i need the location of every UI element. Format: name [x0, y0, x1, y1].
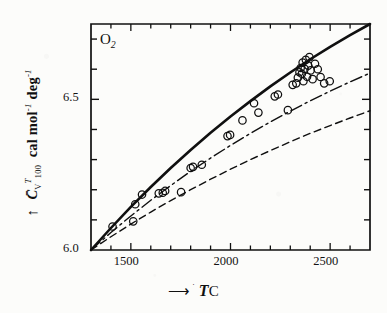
y-axis-arrow-icon: ↑: [24, 211, 40, 217]
y-axis-label: ↑ C̄VT100 cal mol-1 deg-1: [23, 38, 43, 248]
y-units-cal-mol: cal mol: [24, 111, 40, 157]
data-point: [189, 163, 196, 170]
data-point: [255, 109, 262, 116]
data-point: [250, 100, 257, 107]
species-subscript: 2: [111, 39, 116, 50]
data-point: [226, 131, 233, 138]
y-units-deg: deg: [24, 77, 40, 99]
y-symbol-c: C̄: [24, 190, 40, 200]
y-tick-label: 6.0: [63, 241, 79, 256]
x-tick-label: 2000: [214, 254, 239, 269]
x-symbol-t: T: [199, 282, 209, 299]
y-symbol-sub-100: 100: [34, 165, 43, 178]
data-point: [239, 117, 246, 124]
scatter-points: [109, 53, 334, 230]
species-annotation: O2: [100, 31, 116, 50]
species-symbol: O: [100, 31, 111, 47]
x-symbol-c: C: [209, 283, 219, 299]
y-symbol-sub-v: V: [34, 183, 43, 189]
x-axis-label: ⟶ ˙ TC: [0, 282, 387, 300]
figure-container: O2 ↑ C̄VT100 cal mol-1 deg-1 ⟶ ˙ TC 1500…: [0, 0, 387, 313]
x-axis-arrow-icon: ⟶: [168, 283, 188, 299]
y-symbol-sup-t: T: [23, 178, 33, 183]
x-tick-label: 2500: [313, 254, 338, 269]
y-units-sup-1: -1: [23, 103, 33, 111]
y-tick-label: 6.5: [63, 90, 79, 105]
y-units-sup-2: -1: [23, 69, 33, 77]
x-tick-label: 1500: [114, 254, 139, 269]
degree-mark: ˙: [192, 282, 195, 292]
